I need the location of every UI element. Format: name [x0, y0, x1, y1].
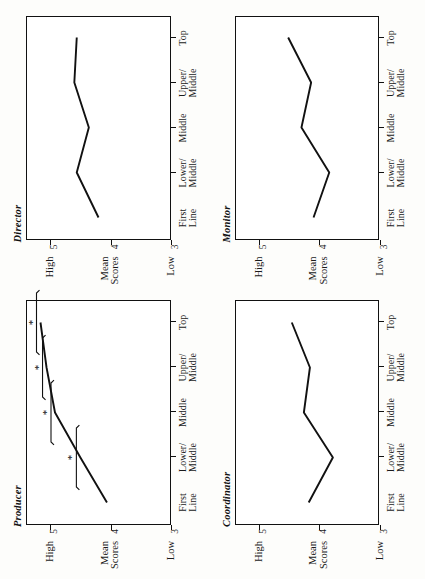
- panels-grid: Producer **** 345HighMeanScoresLowFirstL…: [0, 0, 425, 579]
- y-axis-title: MeanScores: [308, 257, 329, 285]
- y-tick-label: 5: [258, 241, 268, 250]
- panel-title: Director: [12, 205, 23, 243]
- y-axis-title: MeanScores: [100, 541, 121, 569]
- y-axis-low-label: Low: [374, 541, 385, 560]
- series-line: ****: [26, 301, 171, 526]
- y-tick-label: 5: [49, 525, 59, 534]
- x-tick-mark: [171, 367, 176, 368]
- panel-coordinator: Coordinator 345HighMeanScoresLowFirstLin…: [215, 289, 424, 574]
- y-tick-label: 5: [258, 525, 268, 534]
- y-tick-label: 3: [170, 241, 180, 250]
- x-tick-mark: [171, 457, 176, 458]
- series-line: [235, 301, 380, 526]
- significance-asterisk: *: [65, 455, 77, 461]
- y-axis-high-label: High: [253, 257, 264, 278]
- x-tick-label: Top: [178, 315, 188, 330]
- x-tick-label: Lower/Middle: [178, 159, 199, 188]
- x-tick-mark: [379, 457, 384, 458]
- plot-area: 345HighMeanScoresLowFirstLineLower/Middl…: [26, 16, 171, 241]
- panel-title: Coordinator: [221, 472, 232, 527]
- y-axis-high-label: High: [45, 541, 56, 562]
- y-tick-label: 4: [318, 525, 328, 534]
- x-tick-mark: [171, 412, 176, 413]
- x-tick-label: FirstLine: [386, 493, 407, 511]
- x-tick-label: FirstLine: [178, 493, 199, 511]
- panel-director: Director 345HighMeanScoresLowFirstLineLo…: [6, 4, 215, 289]
- x-tick-mark: [379, 172, 384, 173]
- y-tick-label: 3: [379, 525, 389, 534]
- series-line: [235, 16, 380, 241]
- y-tick-label: 3: [170, 525, 180, 534]
- x-tick-label: Upper/Middle: [386, 69, 407, 98]
- panel-producer: Producer **** 345HighMeanScoresLowFirstL…: [6, 289, 215, 574]
- x-tick-mark: [171, 172, 176, 173]
- y-axis-high-label: High: [45, 257, 56, 278]
- x-tick-label: Middle: [178, 114, 188, 143]
- data-line: [291, 323, 332, 503]
- x-tick-mark: [379, 412, 384, 413]
- significance-asterisk: *: [32, 365, 44, 371]
- plot-area: **** 345HighMeanScoresLowFirstLineLower/…: [26, 301, 171, 526]
- y-axis-title: MeanScores: [308, 541, 329, 569]
- panel-title: Monitor: [221, 206, 232, 243]
- plot-area: 345HighMeanScoresLowFirstLineLower/Middl…: [235, 301, 380, 526]
- x-tick-label: Top: [386, 315, 396, 330]
- data-line: [74, 38, 98, 218]
- x-tick-label: Middle: [178, 398, 188, 427]
- series-line: [26, 16, 171, 241]
- x-tick-mark: [171, 322, 176, 323]
- panel-monitor: Monitor 345HighMeanScoresLowFirstLineLow…: [215, 4, 424, 289]
- y-tick-label: 5: [49, 241, 59, 250]
- y-tick-label: 4: [318, 241, 328, 250]
- data-line: [288, 38, 329, 218]
- significance-asterisk: *: [26, 320, 38, 326]
- x-tick-label: Lower/Middle: [178, 443, 199, 472]
- plot-area: 345HighMeanScoresLowFirstLineLower/Middl…: [235, 16, 380, 241]
- x-tick-mark: [379, 37, 384, 38]
- x-tick-label: Upper/Middle: [178, 69, 199, 98]
- panel-title: Producer: [12, 485, 23, 527]
- x-tick-mark: [379, 127, 384, 128]
- rotated-figure: Producer **** 345HighMeanScoresLowFirstL…: [0, 0, 425, 579]
- x-tick-label: Top: [386, 30, 396, 45]
- significance-asterisk: *: [40, 410, 52, 416]
- x-tick-label: FirstLine: [386, 209, 407, 227]
- y-axis-title: MeanScores: [100, 257, 121, 285]
- y-tick-label: 3: [379, 241, 389, 250]
- x-tick-label: Upper/Middle: [178, 353, 199, 382]
- x-tick-label: Top: [178, 30, 188, 45]
- x-tick-label: Lower/Middle: [386, 443, 407, 472]
- x-tick-label: Middle: [386, 398, 396, 427]
- y-axis-low-label: Low: [374, 257, 385, 276]
- x-tick-mark: [171, 82, 176, 83]
- x-tick-mark: [171, 37, 176, 38]
- y-axis-high-label: High: [253, 541, 264, 562]
- y-tick-label: 4: [110, 525, 120, 534]
- x-tick-label: Middle: [386, 114, 396, 143]
- x-tick-label: FirstLine: [178, 209, 199, 227]
- y-tick-label: 4: [110, 241, 120, 250]
- x-tick-label: Upper/Middle: [386, 353, 407, 382]
- x-tick-mark: [379, 367, 384, 368]
- x-tick-mark: [171, 127, 176, 128]
- y-axis-low-label: Low: [166, 541, 177, 560]
- x-tick-mark: [379, 322, 384, 323]
- x-tick-label: Lower/Middle: [386, 159, 407, 188]
- y-axis-low-label: Low: [166, 257, 177, 276]
- x-tick-mark: [379, 82, 384, 83]
